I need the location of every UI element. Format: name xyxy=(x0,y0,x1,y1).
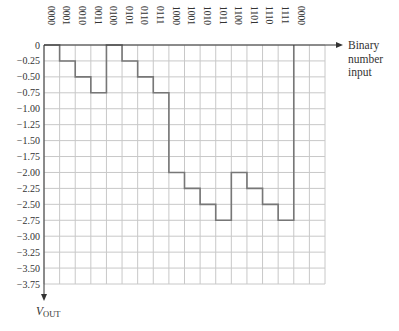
y-tick-label: −0.75 xyxy=(17,87,40,98)
x-category-label: 1110 xyxy=(264,6,274,25)
y-tick-labels: 0−0.25−0.50−0.75−1.00−1.25−1.50−1.75−2.0… xyxy=(17,40,40,290)
x-category-label: 0001 xyxy=(61,6,71,25)
x-axis-title-line: Binary xyxy=(348,39,380,52)
x-axis-title: Binarynumberinput xyxy=(348,39,383,79)
y-axis-title: VOUT xyxy=(36,305,61,319)
x-category-labels: 0000000100100011010001010110011110001001… xyxy=(46,6,306,25)
y-tick-label: −3.25 xyxy=(17,247,40,258)
x-category-label: 0111 xyxy=(155,6,165,25)
x-category-label: 1001 xyxy=(186,6,196,25)
y-axis-title: VOUT xyxy=(36,305,61,319)
y-tick-label: −3.00 xyxy=(17,231,40,242)
x-category-label: 1000 xyxy=(171,6,181,25)
y-tick-label: −2.75 xyxy=(17,215,40,226)
x-category-label: 1011 xyxy=(218,6,228,25)
y-tick-label: −1.25 xyxy=(17,119,40,130)
x-category-label: 0100 xyxy=(108,6,118,25)
y-axis-title-subscript: OUT xyxy=(43,309,61,319)
x-category-label: 0110 xyxy=(139,6,149,25)
y-tick-label: −2.00 xyxy=(17,167,40,178)
x-category-label: 0011 xyxy=(93,6,103,25)
y-tick-label: −2.25 xyxy=(17,183,40,194)
x-category-label: 1010 xyxy=(202,6,212,25)
chart-grid xyxy=(44,45,325,284)
x-category-label: 0000 xyxy=(46,6,56,25)
y-axis-arrow-icon xyxy=(41,294,47,301)
x-axis-title-line: input xyxy=(348,66,372,79)
x-axis-arrow-icon xyxy=(336,42,343,48)
y-tick-label: −1.50 xyxy=(17,135,40,146)
x-category-label: 0000 xyxy=(296,6,306,25)
y-tick-label: −0.50 xyxy=(17,71,40,82)
y-tick-label: −1.75 xyxy=(17,151,40,162)
x-category-label: 1111 xyxy=(280,6,290,24)
y-tick-label: −3.50 xyxy=(17,263,40,274)
y-tick-label: 0 xyxy=(35,40,40,51)
x-category-label: 0010 xyxy=(77,6,87,25)
chart-axes xyxy=(41,42,343,301)
x-category-label: 1101 xyxy=(249,6,259,25)
y-tick-label: −2.50 xyxy=(17,199,40,210)
y-tick-label: −0.25 xyxy=(17,55,40,66)
step-chart: 0−0.25−0.50−0.75−1.00−1.25−1.50−1.75−2.0… xyxy=(0,0,399,331)
x-category-label: 1100 xyxy=(233,6,243,25)
x-category-label: 0101 xyxy=(124,6,134,25)
x-axis-title-line: number xyxy=(348,53,383,65)
y-tick-label: −1.00 xyxy=(17,103,40,114)
y-tick-label: −3.75 xyxy=(17,279,40,290)
